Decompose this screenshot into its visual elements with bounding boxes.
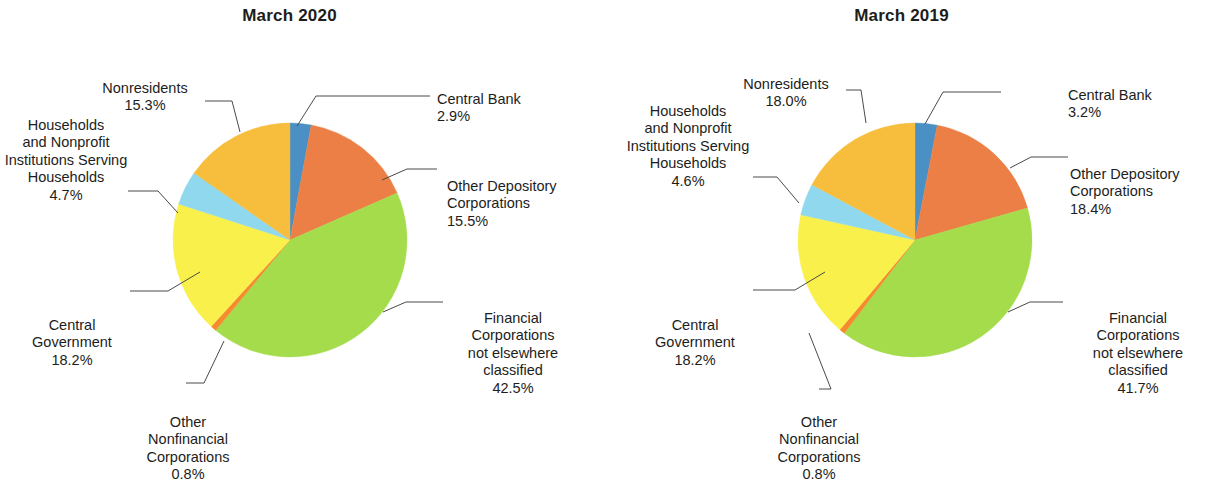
pie-chart-figure: March 2020 Central: [0, 0, 1206, 481]
chart-panel-march-2020: March 2020 Central: [0, 0, 603, 481]
label-central-government: Central Government 18.2%: [633, 299, 757, 387]
chart-panel-march-2019: March 2019 Central: [603, 0, 1206, 481]
label-central-government-name: Central Government: [655, 317, 735, 351]
label-financial-nec-name: Financial Corporations not elsewhere cla…: [468, 310, 558, 379]
label-nonresidents-pct: 18.0%: [726, 93, 846, 111]
label-central-government: Central Government 18.2%: [10, 299, 134, 387]
label-central-government-name: Central Government: [32, 317, 112, 351]
panel-title-march-2020: March 2020: [0, 6, 591, 26]
label-nonresidents: Nonresidents 15.3%: [85, 62, 205, 132]
panel-title-march-2019: March 2019: [600, 6, 1203, 26]
label-central-bank: Central Bank 3.2%: [1068, 69, 1206, 139]
label-households-pct: 4.6%: [621, 173, 755, 191]
label-other-nonfinancial-pct: 0.8%: [749, 466, 889, 481]
label-financial-corporations-nec: Financial Corporations not elsewhere cla…: [1070, 292, 1206, 415]
label-other-depository-pct: 18.4%: [1070, 201, 1206, 219]
label-other-nonfinancial-corporations: Other Nonfinancial Corporations 0.8%: [749, 396, 889, 481]
pie-march-2019: [797, 122, 1033, 358]
label-other-depository-pct: 15.5%: [447, 213, 603, 231]
label-other-depository-name: Other Depository Corporations: [1070, 166, 1180, 200]
label-central-bank: Central Bank 2.9%: [437, 73, 597, 143]
label-other-nonfinancial-corporations: Other Nonfinancial Corporations 0.8%: [118, 396, 258, 481]
label-other-depository-name: Other Depository Corporations: [447, 178, 557, 212]
label-central-bank-pct: 2.9%: [437, 108, 597, 126]
label-financial-nec-pct: 41.7%: [1070, 380, 1206, 398]
label-other-depository-corporations: Other Depository Corporations 15.5%: [447, 160, 603, 248]
label-central-bank-pct: 3.2%: [1068, 104, 1206, 122]
label-central-bank-name: Central Bank: [1068, 87, 1152, 103]
label-other-nonfinancial-name: Other Nonfinancial Corporations: [146, 414, 229, 465]
label-financial-corporations-nec: Financial Corporations not elsewhere cla…: [443, 292, 583, 415]
label-financial-nec-name: Financial Corporations not elsewhere cla…: [1093, 310, 1183, 379]
label-other-depository-corporations: Other Depository Corporations 18.4%: [1070, 148, 1206, 236]
label-other-nonfinancial-pct: 0.8%: [118, 466, 258, 481]
label-central-bank-name: Central Bank: [437, 91, 521, 107]
label-nonresidents: Nonresidents 18.0%: [726, 58, 846, 128]
label-nonresidents-pct: 15.3%: [85, 97, 205, 115]
label-financial-nec-pct: 42.5%: [443, 380, 583, 398]
label-households-pct: 4.7%: [0, 187, 132, 205]
pie-march-2020: [172, 122, 408, 358]
label-nonresidents-name: Nonresidents: [743, 76, 828, 92]
label-central-government-pct: 18.2%: [10, 352, 134, 370]
label-central-government-pct: 18.2%: [633, 352, 757, 370]
label-nonresidents-name: Nonresidents: [102, 80, 187, 96]
label-other-nonfinancial-name: Other Nonfinancial Corporations: [777, 414, 860, 465]
